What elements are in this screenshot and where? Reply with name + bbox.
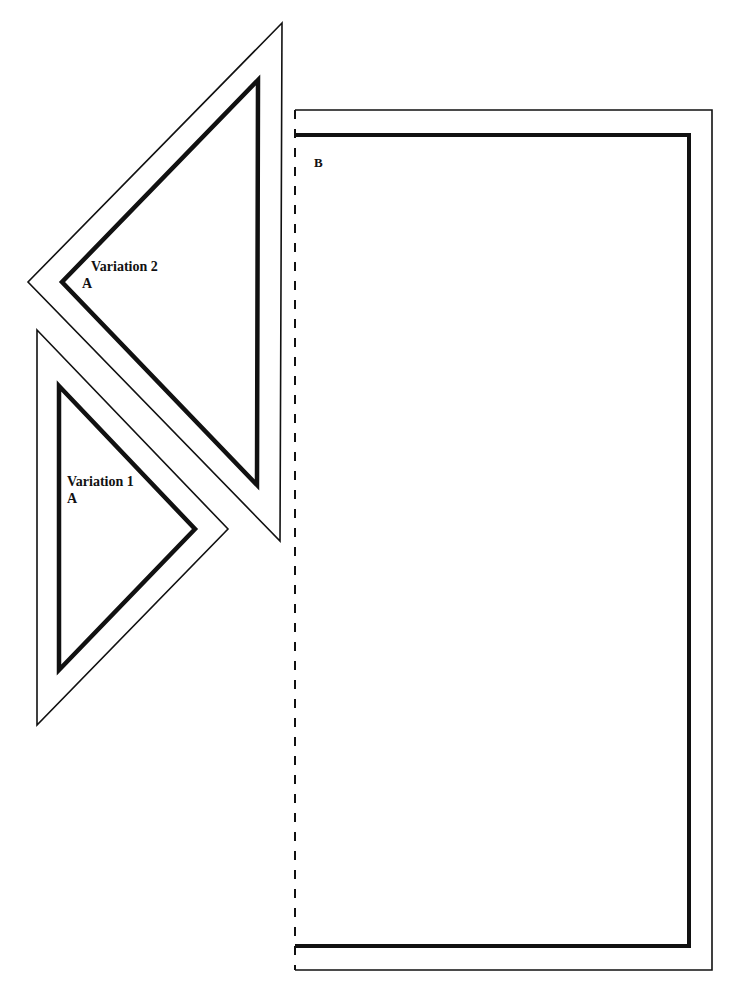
variation-2-piece-letter: A [82,276,92,292]
rectangle-b-piece-letter: B [314,155,323,171]
variation-1-seam-line [59,386,195,670]
rectangle-b-cutting-line [295,110,712,970]
variation-2-piece [28,23,282,541]
template-diagram [0,0,747,1002]
variation-1-piece-letter: A [67,491,77,507]
variation-1-label: Variation 1 [67,474,134,490]
rectangle-b-piece [295,110,712,970]
variation-2-label: Variation 2 [91,259,158,275]
variation-2-cutting-line [28,23,282,541]
rectangle-b-seam-line [295,135,689,946]
